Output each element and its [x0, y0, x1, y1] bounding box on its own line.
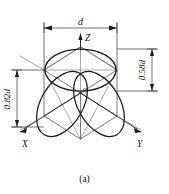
diagonal-top-back-left	[44, 47, 81, 70]
arrowhead-082d-bottom	[15, 120, 19, 127]
dimension-label-d: d	[78, 16, 84, 27]
cube-edge-bottom-left	[44, 116, 81, 139]
axis-y-label: Y	[137, 139, 144, 149]
figure-caption: (a)	[79, 174, 90, 185]
arrowhead-right	[109, 26, 117, 31]
construction-line-upper-left	[20, 56, 44, 70]
axis-x-arrowhead	[19, 128, 27, 133]
origin-label: O	[83, 86, 88, 94]
arrowhead-058d-bottom	[150, 84, 154, 91]
arrowhead-left	[44, 26, 52, 31]
construction-line-lower-left	[20, 116, 44, 130]
arrowhead-082d-top	[15, 70, 19, 77]
diagonal-top-back-right	[81, 47, 118, 70]
dimension-height-082d: 0.82d	[2, 70, 44, 127]
construction-line-lower-right	[117, 116, 141, 130]
dimension-height-058d: 0.58d	[117, 49, 158, 91]
cube-edge-bottom-right	[81, 116, 118, 139]
axis-y-arrowhead	[134, 128, 142, 133]
dimension-label-058d: 0.58d	[137, 59, 147, 80]
dimension-label-082d: 0.82d	[2, 88, 12, 109]
axis-z-label: Z	[85, 33, 91, 43]
technical-drawing-figure: O Z X Y	[0, 0, 169, 194]
isometric-sphere-cube-drawing: O Z X Y	[0, 0, 169, 194]
arrowhead-058d-top	[150, 49, 154, 56]
axis-x-label: X	[21, 139, 29, 149]
axis-z-arrowhead	[78, 33, 82, 40]
axis-z: Z	[78, 33, 91, 50]
